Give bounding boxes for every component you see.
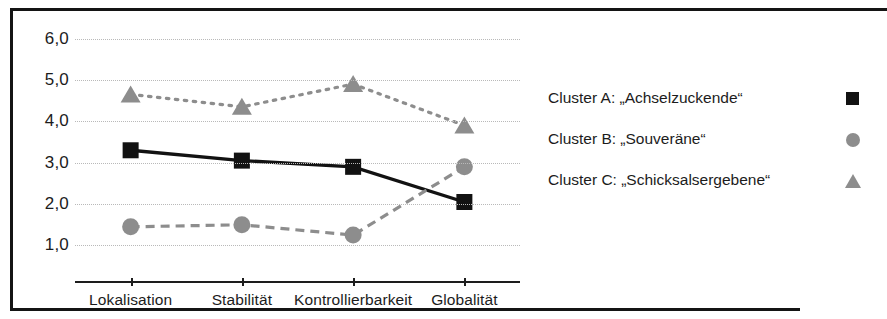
series-line xyxy=(131,84,465,125)
x-tick-mark xyxy=(464,278,466,286)
x-tick-mark xyxy=(131,278,133,286)
data-point-marker xyxy=(234,153,250,169)
legend-item: Cluster C: „Schicksalsergebene“ xyxy=(548,170,878,196)
x-tick-label: Kontrollierbarkeit xyxy=(294,291,412,309)
figure-frame: 1,02,03,04,05,06,0 LokalisationStabilitä… xyxy=(0,0,887,319)
legend-item-label: Cluster B: „Souveräne“ xyxy=(548,129,706,149)
data-point-marker xyxy=(345,227,362,244)
gridline xyxy=(75,245,520,246)
data-point-marker xyxy=(122,218,139,235)
series-line xyxy=(131,167,465,235)
y-tick-label: 1,0 xyxy=(23,235,69,255)
line-chart: 1,02,03,04,05,06,0 LokalisationStabilitä… xyxy=(13,11,533,307)
y-tick-label: 6,0 xyxy=(23,29,69,49)
gridline xyxy=(75,39,520,40)
gridline xyxy=(75,121,520,122)
x-axis-line xyxy=(75,281,520,283)
plot-area xyxy=(75,22,520,262)
x-tick-label: Lokalisation xyxy=(89,291,172,309)
gridline xyxy=(75,80,520,81)
chart-legend: Cluster A: „Achselzuckende“Cluster B: „S… xyxy=(548,88,878,198)
y-tick-label: 5,0 xyxy=(23,70,69,90)
x-tick-label: Stabilität xyxy=(212,291,272,309)
series-overlay xyxy=(75,22,520,262)
data-point-marker xyxy=(233,216,250,233)
y-tick-label: 2,0 xyxy=(23,194,69,214)
data-point-marker xyxy=(123,142,139,158)
data-point-marker xyxy=(454,116,474,133)
data-point-marker xyxy=(456,194,472,210)
series-line xyxy=(131,150,465,202)
triangle-marker-icon xyxy=(844,171,862,189)
data-point-marker xyxy=(343,75,363,92)
square-marker-icon xyxy=(844,89,862,107)
legend-item: Cluster A: „Achselzuckende“ xyxy=(548,88,878,114)
y-axis: 1,02,03,04,05,06,0 xyxy=(17,22,69,262)
y-tick-label: 3,0 xyxy=(23,153,69,173)
gridline xyxy=(75,163,520,164)
circle-marker-icon xyxy=(844,130,862,148)
y-tick-label: 4,0 xyxy=(23,111,69,131)
data-point-marker xyxy=(345,159,361,175)
x-tick-label: Globalität xyxy=(431,291,497,309)
legend-item: Cluster B: „Souveräne“ xyxy=(548,129,878,155)
data-point-marker xyxy=(121,85,141,102)
x-tick-mark xyxy=(242,278,244,286)
x-tick-mark xyxy=(353,278,355,286)
circle-marker-icon-glyph xyxy=(846,133,860,147)
legend-item-label: Cluster C: „Schicksalsergebene“ xyxy=(548,170,770,190)
gridline xyxy=(75,204,520,205)
legend-item-label: Cluster A: „Achselzuckende“ xyxy=(548,88,743,108)
triangle-marker-icon-glyph xyxy=(845,174,861,188)
data-point-marker xyxy=(456,158,473,175)
square-marker-icon-glyph xyxy=(846,92,859,105)
x-axis: LokalisationStabilitätKontrollierbarkeit… xyxy=(13,291,533,315)
